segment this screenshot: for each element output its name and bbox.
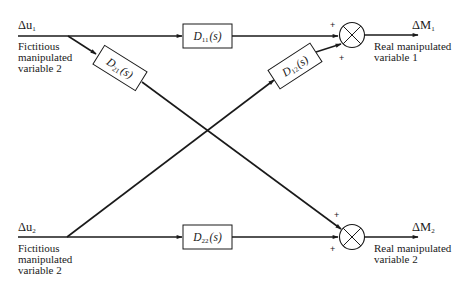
signal-line-d12-to-sum1 <box>316 44 341 52</box>
summing-junction-1: + + <box>330 20 365 63</box>
plus-sign: + <box>330 244 335 254</box>
output-caption-dm2: Real manipulated variable 2 <box>374 243 451 265</box>
plus-sign: + <box>330 20 335 30</box>
output-caption-dm1: Real manipulated variable 1 <box>374 41 451 63</box>
input-label-du1: Δu1 <box>18 20 36 35</box>
block-d12: D12(s) <box>268 43 322 89</box>
input-caption-du1: Fictitious manipulated variable 2 <box>18 41 72 74</box>
input-label-du2: Δu2 <box>18 222 36 237</box>
output-label-dm2: ΔM2 <box>412 222 435 237</box>
output-label-dm1: ΔM1 <box>412 20 435 35</box>
input-caption-du2: Fictitious manipulated variable 2 <box>18 243 72 276</box>
block-d11: D11(s) <box>183 24 232 48</box>
plus-sign: + <box>334 210 339 220</box>
block-d22: D22(s) <box>183 225 232 249</box>
block-d21: D21(s) <box>93 45 147 90</box>
plus-sign: + <box>339 53 344 63</box>
summing-junction-2: + + <box>330 210 365 254</box>
